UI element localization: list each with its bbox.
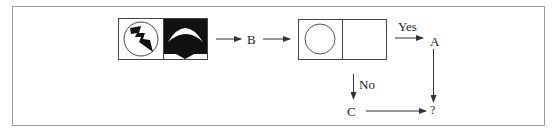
- crescent-over-dome-icon: [164, 19, 207, 59]
- panel-1: [119, 19, 208, 60]
- node-a: A: [430, 35, 439, 48]
- node-c: C: [347, 105, 356, 118]
- label-yes: Yes: [398, 20, 417, 33]
- result-question-mark: ?: [430, 104, 435, 117]
- flow-diagram: [0, 0, 559, 131]
- label-no: No: [359, 78, 375, 91]
- panel-2: [299, 20, 387, 60]
- lightning-bolt-in-circle-icon: [124, 22, 158, 56]
- label-b: B: [247, 33, 256, 46]
